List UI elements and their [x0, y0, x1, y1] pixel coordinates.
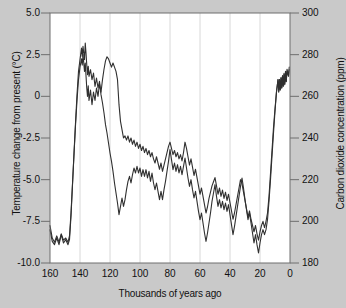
x-tick-60: 60 [185, 268, 215, 279]
y-right-tick-240: 240 [302, 132, 336, 143]
y-right-tick-220: 220 [302, 174, 336, 185]
x-tick-80: 80 [155, 268, 185, 279]
x-axis-title: Thousands of years ago [0, 288, 340, 299]
y-right-tick-300: 300 [302, 7, 336, 18]
y-left-tick--5.0: -5.0 [6, 174, 40, 185]
x-tick-140: 140 [65, 268, 95, 279]
y-right-tick-200: 200 [302, 215, 336, 226]
y-left-tick-5.0: 5.0 [6, 7, 40, 18]
x-tick-0: 0 [275, 268, 305, 279]
y-left-tick--2.5: -2.5 [6, 132, 40, 143]
y-left-tick-2.5: 2.5 [6, 49, 40, 60]
y-right-tick-180: 180 [302, 257, 336, 268]
y-left-tick--10.0: -10.0 [6, 257, 40, 268]
x-tick-40: 40 [215, 268, 245, 279]
x-tick-100: 100 [125, 268, 155, 279]
right-tick-marks [290, 13, 299, 263]
x-tick-120: 120 [95, 268, 125, 279]
y-left-tick--7.5: -7.5 [6, 215, 40, 226]
y-right-tick-260: 260 [302, 90, 336, 101]
x-tick-20: 20 [245, 268, 275, 279]
x-tick-160: 160 [35, 268, 65, 279]
left-tick-marks [41, 13, 50, 263]
y-axis-right-title: Carbon dioxide concentration (ppm) [335, 34, 346, 234]
y-right-tick-280: 280 [302, 49, 336, 60]
y-left-tick-0: 0 [6, 90, 40, 101]
